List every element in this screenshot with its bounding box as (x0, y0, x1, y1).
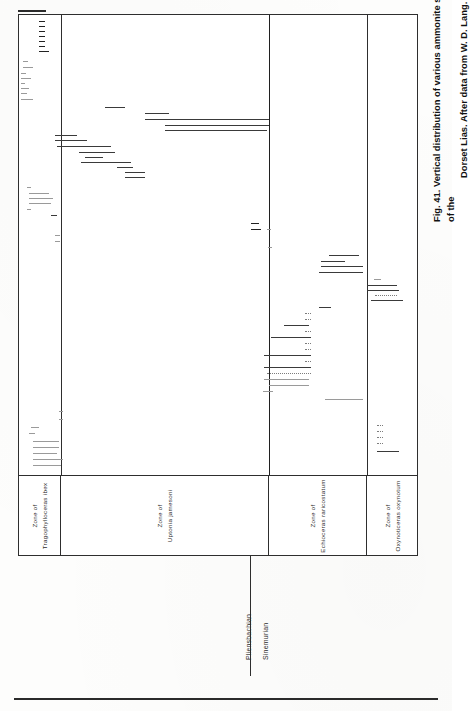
species-range-bar (29, 203, 51, 204)
species-range-bar (39, 41, 45, 42)
species-range-bar (377, 443, 383, 444)
species-range-bar (33, 459, 63, 460)
species-range-bar (33, 447, 59, 448)
species-range-bar (27, 209, 31, 210)
species-range-bar (55, 140, 87, 141)
zone-label: Zone ofOxynoticeras oxynotum (383, 480, 402, 551)
species-range-bar (377, 431, 383, 432)
zone-label-line-1: Zone of (383, 480, 393, 551)
species-range-bar (269, 385, 309, 386)
species-range-bar (55, 235, 60, 236)
species-range-bar (39, 46, 45, 47)
species-range-bar (81, 162, 131, 163)
species-range-bar (165, 130, 267, 131)
page-bottom-rule (14, 698, 438, 700)
zone-boundary-rule (269, 15, 270, 475)
species-range-bar (21, 83, 25, 84)
zone-boundary-rule (367, 15, 368, 475)
species-range-bar (375, 295, 397, 296)
species-range-bar (377, 451, 399, 452)
species-range-bar (125, 177, 145, 178)
caption-line-2: Dorset Lias. After data from W. D. Lang. (457, 0, 471, 222)
zone-cell-uptonia: Zone ofUptonia jamesoni (61, 476, 269, 555)
species-range-bar (321, 266, 363, 267)
species-range-bar (21, 78, 31, 79)
zone-label: Zone ofUptonia jamesoni (155, 489, 174, 542)
species-range-bar (31, 427, 39, 428)
species-range-bar (251, 223, 259, 224)
species-range-bar (325, 399, 363, 400)
species-range-bar (377, 425, 383, 426)
species-range-bar (29, 193, 49, 194)
species-range-bar (21, 88, 29, 89)
species-range-bar (264, 355, 311, 356)
species-range-bar (267, 373, 311, 374)
species-range-bar (51, 215, 57, 216)
zone-label-line-2: Tragophylloceras ibex (40, 482, 50, 549)
species-range-bar (367, 290, 399, 291)
species-range-bar (284, 325, 309, 326)
species-range-bar (267, 229, 271, 230)
species-range-bar (23, 67, 33, 68)
species-range-bar (29, 433, 35, 434)
species-range-bar (319, 307, 331, 308)
zone-cell-tragophylloceras: Zone ofTragophylloceras ibex (19, 476, 61, 555)
species-range-bar (57, 146, 111, 147)
species-range-bar (105, 107, 125, 108)
species-range-bar (33, 465, 61, 466)
species-range-bar (55, 241, 60, 242)
species-range-bar (377, 437, 383, 438)
species-range-bar (33, 453, 57, 454)
plate-top-rule (18, 10, 46, 12)
species-range-bar (251, 229, 261, 230)
species-range-bar (321, 261, 345, 262)
zone-label-line-2: Oxynoticeras oxynotum (393, 480, 403, 551)
zone-label-line-1: Zone of (155, 489, 165, 542)
species-range-bar (268, 247, 272, 248)
species-range-bar (39, 36, 45, 37)
species-range-bar (39, 26, 45, 27)
zone-label-line-1: Zone of (308, 479, 318, 552)
species-range-bar (305, 343, 311, 344)
species-range-bar (21, 99, 33, 100)
stage-divider-rule (250, 556, 251, 676)
zone-label-band: Zone ofTragophylloceras ibexZone ofUpton… (18, 476, 418, 556)
species-range-bar (59, 419, 63, 420)
species-range-bar (305, 331, 311, 332)
zone-label-line-1: Zone of (30, 482, 40, 549)
species-range-bar (23, 61, 28, 62)
range-chart-plot (18, 14, 418, 476)
zone-label-line-2: Echioceras raricostatum (318, 479, 328, 552)
species-range-bar (21, 93, 27, 94)
species-range-bar (145, 113, 169, 114)
caption-line-1: Fig. 41. Vertical distribution of variou… (431, 0, 456, 222)
zone-label-line-2: Uptonia jamesoni (165, 489, 175, 542)
species-range-bar (33, 441, 59, 442)
species-range-bar (117, 167, 133, 168)
species-range-bar (329, 255, 359, 256)
zone-boundary-rule (61, 15, 62, 475)
figure-caption: Fig. 41. Vertical distribution of variou… (430, 0, 471, 222)
species-range-bar (374, 279, 381, 280)
species-range-bar (367, 285, 397, 286)
species-range-bar (39, 51, 49, 52)
zone-cell-echioceras: Zone ofEchioceras raricostatum (269, 476, 367, 555)
species-range-bar (59, 411, 63, 412)
stage-label-sinemurian: Sinemurian (262, 623, 269, 660)
species-range-bar (319, 272, 363, 273)
species-range-bar (263, 391, 273, 392)
zone-label: Zone ofTragophylloceras ibex (30, 482, 49, 549)
species-range-bar (39, 21, 45, 22)
species-range-bar (85, 157, 103, 158)
species-range-bar (305, 361, 311, 362)
species-range-bar (79, 152, 115, 153)
species-range-bar (29, 198, 53, 199)
species-range-bar (165, 125, 269, 126)
species-range-bar (305, 319, 311, 320)
species-range-bar (125, 172, 145, 173)
species-range-bar (145, 119, 269, 120)
species-range-bar (27, 187, 31, 188)
species-range-bar (264, 379, 309, 380)
species-range-bar (305, 349, 311, 350)
